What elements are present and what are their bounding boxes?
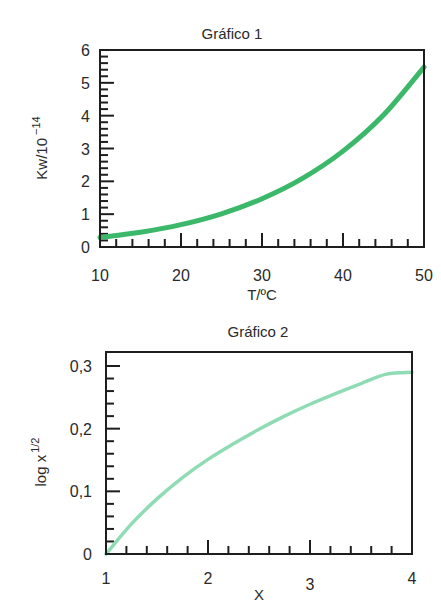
x-tick-label: 3	[306, 576, 315, 593]
y-tick-label: 0	[83, 546, 92, 563]
y-tick-label: 4	[81, 108, 90, 125]
y-tick-label: 6	[81, 42, 90, 59]
chart-1-frame	[100, 50, 424, 247]
y-tick-label: 5	[81, 75, 90, 92]
svg-text:Kw/10−14: Kw/10−14	[30, 116, 50, 179]
y-tick-label: 0	[81, 239, 90, 256]
chart-2-y-axis-label: log x1/2	[29, 438, 49, 487]
chart-2-ticks	[106, 366, 392, 554]
x-tick-label: 10	[91, 267, 109, 284]
x-tick-label: 50	[415, 267, 433, 284]
chart-1-ticks	[100, 50, 408, 247]
chart-1-y-axis-label: Kw/10−14	[30, 116, 50, 179]
x-tick-label: 1	[102, 570, 111, 587]
chart-figure: Gráfico 1 Kw/10−14 T/ºC 1020304050012345…	[0, 0, 441, 608]
y-tick-label: 2	[81, 173, 90, 190]
chart-1-y-label-exponent: −14	[30, 116, 42, 135]
chart-2: Gráfico 2 log x1/2 X 123400,10,20,3	[29, 323, 417, 603]
chart-2-y-label-text: log x	[32, 454, 49, 486]
svg-text:log x1/2: log x1/2	[29, 438, 49, 487]
chart-1-y-label-text: Kw/10	[33, 138, 50, 180]
chart-2-tick-labels: 123400,10,20,3	[70, 358, 417, 593]
x-tick-label: 4	[408, 570, 417, 587]
x-tick-label: 40	[334, 267, 352, 284]
x-tick-label: 2	[204, 570, 213, 587]
chart-2-title: Gráfico 2	[228, 323, 289, 340]
x-tick-label: 20	[172, 267, 190, 284]
y-tick-label: 3	[81, 141, 90, 158]
chart-2-x-axis-label: X	[254, 586, 264, 603]
y-tick-label: 0,2	[70, 421, 92, 438]
y-tick-label: 0,1	[70, 483, 92, 500]
chart-2-curve	[106, 372, 412, 554]
x-tick-label: 30	[253, 267, 271, 284]
chart-1-curve	[100, 67, 424, 237]
chart-2-y-label-exponent: 1/2	[29, 438, 41, 453]
y-tick-label: 1	[81, 206, 90, 223]
chart-1-title: Gráfico 1	[202, 25, 263, 42]
y-tick-label: 0,3	[70, 358, 92, 375]
chart-1: Gráfico 1 Kw/10−14 T/ºC 1020304050012345…	[30, 25, 433, 303]
chart-1-x-axis-label: T/ºC	[247, 286, 277, 303]
